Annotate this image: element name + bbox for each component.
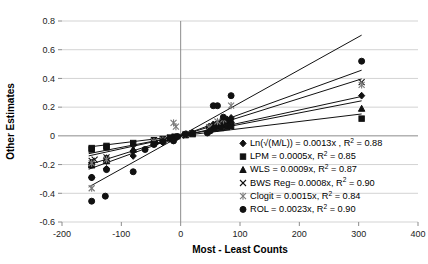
datapoint-clogit-11	[228, 102, 234, 109]
x-axis-title: Most - Least Counts	[192, 244, 288, 255]
legend-label-bws-reg: BWS Reg= 0.0008x, R2 = 0.90	[250, 176, 375, 187]
legend-item-ln-m-l[interactable]: Ln(√(M/L)) = 0.0013x , R2 = 0.88	[240, 137, 382, 148]
ytick-label-6: 0.6	[42, 45, 55, 55]
legend-item-lpm[interactable]: LPM = 0.0005x, R2 = 0.85	[240, 150, 356, 161]
datapoint-lpm-4	[131, 140, 136, 145]
ytick-label-7: 0.8	[42, 16, 55, 26]
ytick-label-2: -0.2	[39, 160, 55, 170]
ytick-label-5: 0.4	[42, 74, 55, 84]
series-clogit	[89, 81, 365, 192]
datapoint-lpm-1	[89, 145, 94, 150]
xtick-label-5: 300	[351, 229, 366, 239]
xtick-label-3: 100	[232, 229, 247, 239]
y-axis-title: Other Estimates	[5, 83, 16, 160]
ytick-label-3: 0	[50, 131, 55, 141]
datapoint-rol-17	[359, 58, 365, 64]
legend-label-ln-m-l: Ln(√(M/L)) = 0.0013x , R2 = 0.88	[250, 137, 382, 148]
legend-item-wls[interactable]: WLS = 0.0009x, R2 = 0.87	[240, 163, 357, 174]
ytick-label-1: -0.4	[39, 189, 55, 199]
datapoint-rol-14	[214, 103, 220, 109]
datapoint-rol-1	[89, 174, 95, 180]
datapoint-lpm-3	[104, 143, 109, 148]
datapoint-rol-3	[104, 167, 110, 173]
datapoint-rol-4	[130, 169, 136, 175]
legend-label-rol: ROL = 0.0023x, R2 = 0.90	[250, 203, 356, 214]
datapoint-ln-m-l-23	[359, 92, 365, 99]
datapoint-rol-12	[207, 128, 213, 134]
legend-label-clogit: Clogit = 0.0015x, R2 = 0.84	[250, 190, 360, 201]
xtick-label-6: 400	[410, 229, 425, 239]
datapoint-lpm-legend-legend	[240, 154, 245, 159]
xtick-label-1: -100	[112, 229, 130, 239]
legend-label-lpm: LPM = 0.0005x, R2 = 0.85	[250, 150, 356, 161]
xtick-label-4: 200	[292, 229, 307, 239]
datapoint-wls-legend-legend	[240, 167, 246, 173]
datapoint-rol-16	[228, 93, 234, 99]
legend-label-wls: WLS = 0.0009x, R2 = 0.87	[250, 163, 357, 174]
scatter-chart: -0.6-0.4-0.200.20.40.60.8-200-1000100200…	[0, 0, 428, 264]
chart-container: -0.6-0.4-0.200.20.40.60.8-200-1000100200…	[0, 0, 428, 264]
datapoint-rol-7	[160, 139, 166, 145]
datapoint-rol-5	[142, 146, 148, 152]
xtick-label-2: 0	[178, 229, 183, 239]
datapoint-bws-reg-legend-legend	[240, 180, 246, 186]
datapoint-rol-6	[151, 141, 157, 147]
datapoint-rol-9	[175, 134, 181, 140]
datapoint-rol-2	[102, 193, 108, 199]
datapoint-ln-m-l-legend-legend	[240, 140, 246, 147]
datapoint-lpm-16	[359, 116, 364, 121]
ytick-label-0: -0.6	[39, 217, 55, 227]
datapoint-wls-16	[358, 105, 364, 111]
legend-item-bws-reg[interactable]: BWS Reg= 0.0008x, R2 = 0.90	[240, 176, 375, 187]
legend-item-clogit[interactable]: Clogit = 0.0015x, R2 = 0.84	[240, 190, 360, 201]
datapoint-clogit-0	[89, 185, 95, 192]
datapoint-rol-15	[220, 114, 226, 120]
datapoint-clogit-legend-legend	[240, 193, 246, 200]
datapoint-rol-0	[89, 198, 95, 204]
xtick-label-0: -200	[53, 229, 71, 239]
chart-legend: Ln(√(M/L)) = 0.0013x , R2 = 0.88LPM = 0.…	[240, 137, 383, 214]
datapoint-rol-10	[182, 131, 188, 137]
datapoint-rol-legend-legend	[240, 206, 246, 212]
ytick-label-4: 0.2	[42, 102, 55, 112]
legend-item-rol[interactable]: ROL = 0.0023x, R2 = 0.90	[240, 203, 356, 214]
